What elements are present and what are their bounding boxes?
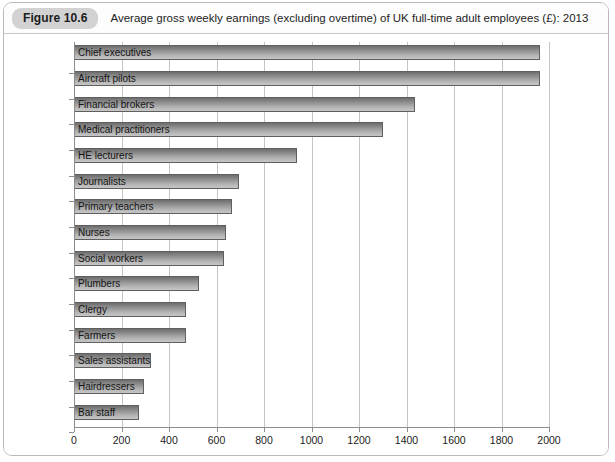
bar-financial-brokers bbox=[74, 97, 415, 112]
x-tick-600 bbox=[217, 427, 218, 432]
bar-farmers bbox=[74, 328, 186, 343]
x-tick-1000 bbox=[312, 427, 313, 432]
x-tick-label-1600: 1600 bbox=[442, 434, 465, 446]
x-tick-label-1400: 1400 bbox=[395, 434, 418, 446]
x-tick-label-200: 200 bbox=[113, 434, 131, 446]
x-tick-2000 bbox=[549, 427, 550, 432]
x-tick-1800 bbox=[502, 427, 503, 432]
bar-row: Bar staff bbox=[74, 405, 549, 420]
bar-row: Medical practitioners bbox=[74, 122, 549, 137]
y-axis-line bbox=[74, 42, 75, 427]
bar-row: Chief executives bbox=[74, 45, 549, 60]
x-tick-1600 bbox=[454, 427, 455, 432]
gridline-2000 bbox=[549, 42, 550, 427]
x-tick-label-0: 0 bbox=[71, 434, 77, 446]
bar-medical-practitioners bbox=[74, 122, 383, 137]
bar-chief-executives bbox=[74, 45, 540, 60]
figure-header: Figure 10.6 Average gross weekly earning… bbox=[4, 3, 608, 34]
figure-number-badge: Figure 10.6 bbox=[12, 8, 98, 29]
bar-journalists bbox=[74, 174, 239, 189]
bar-row: Financial brokers bbox=[74, 97, 549, 112]
plot-area: Chief executivesAircraft pilotsFinancial… bbox=[74, 42, 549, 427]
bar-row: Farmers bbox=[74, 328, 549, 343]
bar-row: Journalists bbox=[74, 174, 549, 189]
bar-bar-staff bbox=[74, 405, 139, 420]
y-tick-14 bbox=[69, 432, 74, 433]
x-tick-200 bbox=[122, 427, 123, 432]
bar-he-lecturers bbox=[74, 148, 297, 163]
x-tick-label-800: 800 bbox=[255, 434, 273, 446]
bar-row: Aircraft pilots bbox=[74, 71, 549, 86]
x-tick-label-2000: 2000 bbox=[537, 434, 560, 446]
figure-caption: Average gross weekly earnings (excluding… bbox=[110, 12, 588, 24]
bar-clergy bbox=[74, 302, 186, 317]
bar-row: Primary teachers bbox=[74, 199, 549, 214]
figure-card: Figure 10.6 Average gross weekly earning… bbox=[3, 2, 609, 456]
x-tick-400 bbox=[169, 427, 170, 432]
bar-row: HE lecturers bbox=[74, 148, 549, 163]
bar-primary-teachers bbox=[74, 199, 232, 214]
x-tick-label-600: 600 bbox=[208, 434, 226, 446]
bar-nurses bbox=[74, 225, 226, 240]
bar-row: Hairdressers bbox=[74, 379, 549, 394]
bar-row: Nurses bbox=[74, 225, 549, 240]
x-tick-label-1000: 1000 bbox=[300, 434, 323, 446]
x-tick-1400 bbox=[407, 427, 408, 432]
bar-sales-assistants bbox=[74, 353, 151, 368]
x-tick-0 bbox=[74, 427, 75, 432]
x-tick-label-1200: 1200 bbox=[347, 434, 370, 446]
bar-hairdressers bbox=[74, 379, 144, 394]
bar-aircraft-pilots bbox=[74, 71, 540, 86]
x-tick-label-1800: 1800 bbox=[490, 434, 513, 446]
bar-row: Social workers bbox=[74, 251, 549, 266]
bar-row: Sales assistants bbox=[74, 353, 549, 368]
chart-area: Chief executivesAircraft pilotsFinancial… bbox=[4, 34, 609, 456]
bar-plumbers bbox=[74, 276, 199, 291]
bar-social-workers bbox=[74, 251, 224, 266]
x-tick-800 bbox=[264, 427, 265, 432]
x-tick-1200 bbox=[359, 427, 360, 432]
bar-row: Clergy bbox=[74, 302, 549, 317]
x-tick-label-400: 400 bbox=[160, 434, 178, 446]
bar-row: Plumbers bbox=[74, 276, 549, 291]
